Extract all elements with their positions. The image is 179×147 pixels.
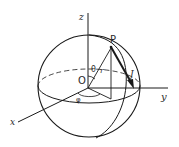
- x-axis: [18, 88, 88, 122]
- y-axis-label: y: [161, 92, 167, 102]
- j-vector-label: J: [130, 70, 134, 79]
- theta-label: θ: [91, 66, 96, 74]
- z-axis-label: z: [79, 13, 84, 22]
- j-vector: [111, 47, 132, 84]
- spherical-coordinates-diagram: z y x O P θ r φ J: [0, 0, 179, 147]
- x-axis-label: x: [10, 118, 15, 127]
- projection-base: [88, 88, 111, 99]
- point-p-label: P: [110, 35, 116, 45]
- radius-label: r: [100, 67, 104, 75]
- phi-label: φ: [76, 97, 81, 104]
- point-p-dot: [110, 46, 113, 49]
- origin-label: O: [78, 76, 86, 86]
- phi-arc: [78, 93, 100, 97]
- diagram-graphics: [0, 0, 179, 147]
- meridian: [89, 35, 126, 138]
